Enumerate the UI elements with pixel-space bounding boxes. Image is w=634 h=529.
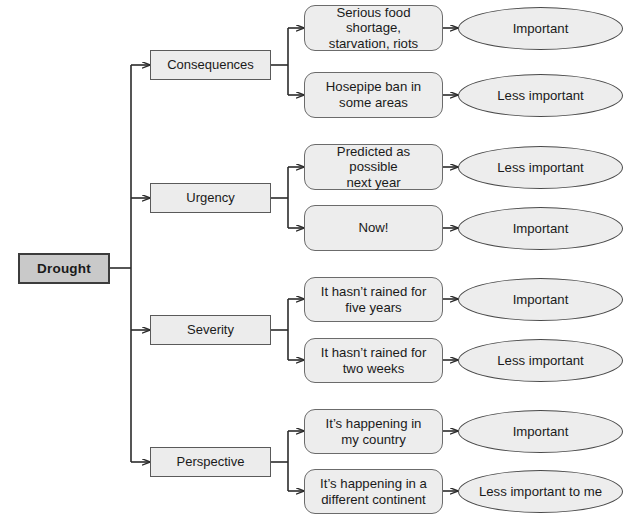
leaf-node-serious-food-shortage[interactable]: Serious food shortage, starvation, riots bbox=[304, 5, 443, 51]
leaf-text: It hasn’t rained for five years bbox=[311, 284, 436, 315]
leaf-node-now[interactable]: Now! bbox=[304, 205, 443, 251]
verdict-label: Less important bbox=[459, 160, 622, 176]
diagram-canvas: Drought Consequences Urgency Severity Pe… bbox=[0, 0, 634, 529]
verdict-node-urgency-1[interactable]: Less important bbox=[458, 146, 623, 189]
leaf-line-1: It’s happening in a bbox=[311, 476, 436, 492]
verdict-node-severity-1[interactable]: Important bbox=[458, 278, 623, 321]
leaf-line-2: starvation, riots bbox=[311, 36, 436, 52]
category-node-consequences[interactable]: Consequences bbox=[150, 50, 271, 80]
category-label: Urgency bbox=[151, 190, 270, 205]
leaf-line-1: It’s happening in bbox=[311, 416, 436, 432]
leaf-line-1: It hasn’t rained for bbox=[311, 345, 436, 361]
verdict-label: Important bbox=[459, 424, 622, 440]
verdict-node-perspective-2[interactable]: Less important to me bbox=[458, 470, 623, 513]
leaf-text: Hosepipe ban in some areas bbox=[311, 79, 436, 110]
category-label: Severity bbox=[151, 322, 270, 337]
leaf-text: It’s happening in a different continent bbox=[311, 476, 436, 507]
verdict-label: Less important bbox=[459, 88, 622, 104]
category-node-perspective[interactable]: Perspective bbox=[150, 447, 271, 477]
verdict-node-perspective-1[interactable]: Important bbox=[458, 410, 623, 453]
leaf-text: Now! bbox=[311, 220, 436, 236]
category-label: Perspective bbox=[151, 454, 270, 469]
leaf-node-hosepipe-ban[interactable]: Hosepipe ban in some areas bbox=[304, 72, 443, 118]
verdict-label: Important bbox=[459, 292, 622, 308]
verdict-label: Important bbox=[459, 21, 622, 37]
leaf-text: It hasn’t rained for two weeks bbox=[311, 345, 436, 376]
leaf-line-2: next year bbox=[311, 175, 436, 191]
verdict-node-urgency-2[interactable]: Important bbox=[458, 207, 623, 250]
leaf-line-2: different continent bbox=[311, 492, 436, 508]
leaf-line-1: Hosepipe ban in bbox=[311, 79, 436, 95]
verdict-label: Less important to me bbox=[459, 484, 622, 500]
leaf-line-2: my country bbox=[311, 432, 436, 448]
category-node-severity[interactable]: Severity bbox=[150, 315, 271, 345]
leaf-line-2: five years bbox=[311, 300, 436, 316]
leaf-node-five-years[interactable]: It hasn’t rained for five years bbox=[304, 277, 443, 322]
leaf-line-2: some areas bbox=[311, 95, 436, 111]
root-node-drought[interactable]: Drought bbox=[18, 253, 110, 284]
root-label: Drought bbox=[20, 261, 108, 277]
leaf-line-1: Now! bbox=[311, 220, 436, 236]
leaf-text: Serious food shortage, starvation, riots bbox=[311, 5, 436, 52]
leaf-node-my-country[interactable]: It’s happening in my country bbox=[304, 409, 443, 454]
leaf-line-1: Predicted as possible bbox=[311, 144, 436, 175]
category-label: Consequences bbox=[151, 57, 270, 72]
leaf-node-different-continent[interactable]: It’s happening in a different continent bbox=[304, 469, 443, 514]
leaf-node-two-weeks[interactable]: It hasn’t rained for two weeks bbox=[304, 338, 443, 383]
leaf-text: Predicted as possible next year bbox=[311, 144, 436, 191]
leaf-line-1: Serious food shortage, bbox=[311, 5, 436, 36]
verdict-label: Important bbox=[459, 221, 622, 237]
leaf-text: It’s happening in my country bbox=[311, 416, 436, 447]
category-node-urgency[interactable]: Urgency bbox=[150, 183, 271, 213]
leaf-line-2: two weeks bbox=[311, 361, 436, 377]
verdict-node-consequences-1[interactable]: Important bbox=[458, 7, 623, 50]
leaf-line-1: It hasn’t rained for bbox=[311, 284, 436, 300]
verdict-label: Less important bbox=[459, 353, 622, 369]
verdict-node-consequences-2[interactable]: Less important bbox=[458, 74, 623, 117]
verdict-node-severity-2[interactable]: Less important bbox=[458, 339, 623, 382]
leaf-node-predicted-next-year[interactable]: Predicted as possible next year bbox=[304, 144, 443, 190]
